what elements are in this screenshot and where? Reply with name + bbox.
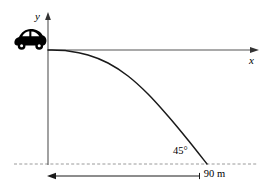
horizontal-range-label: 90 m — [0, 169, 271, 180]
car-icon — [14, 29, 46, 50]
y-axis-label: y — [35, 11, 40, 22]
x-axis-label: x — [249, 55, 254, 66]
y-axis-arrowhead-icon — [45, 12, 51, 20]
figure-canvas — [0, 0, 271, 189]
horizontal-range-text: 90 m — [200, 169, 229, 180]
x-axis-arrowhead-icon — [250, 47, 259, 53]
impact-angle-label: 45° — [173, 146, 188, 157]
physics-trajectory-figure: y x 45° 90 m — [0, 0, 271, 189]
